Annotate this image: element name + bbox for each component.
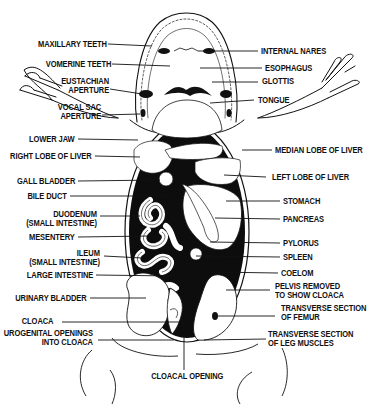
label-pylorus: PYLORUS	[283, 239, 319, 248]
label-transverse-section-femur: TRANSVERSE SECTION OF FEMUR	[281, 304, 366, 322]
label-vomerine-teeth: VOMERINE TEETH	[45, 60, 111, 69]
label-coelom: COELOM	[281, 269, 314, 278]
label-glottis: GLOTTIS	[262, 77, 294, 86]
label-internal-nares: INTERNAL NARES	[261, 47, 326, 56]
label-pancreas: PANCREAS	[283, 215, 324, 224]
label-vocal-sac-aperture: VOCAL SAC APERTURE	[58, 103, 101, 121]
frog-anatomy-diagram: MAXILLARY TEETH VOMERINE TEETH EUSTACHIA…	[0, 0, 375, 404]
label-ileum: ILEUM (SMALL INTESTINE)	[29, 249, 100, 267]
label-mesentery: MESENTERY	[29, 233, 75, 242]
label-esophagus: ESOPHAGUS	[265, 64, 312, 73]
label-pelvis-removed: PELVIS REMOVED TO SHOW CLOACA	[275, 282, 344, 300]
label-cloacal-opening: CLOACAL OPENING	[151, 372, 223, 381]
label-urogenital-openings: UROGENITAL OPENINGS INTO CLOACA	[4, 329, 93, 347]
label-spleen: SPLEEN	[283, 253, 313, 262]
label-lower-jaw: LOWER JAW	[29, 135, 75, 144]
label-maxillary-teeth: MAXILLARY TEETH	[38, 40, 107, 49]
label-transverse-section-leg-muscles: TRANSVERSE SECTION OF LEG MUSCLES	[268, 330, 353, 348]
label-gall-bladder: GALL BLADDER	[17, 177, 75, 186]
label-duodenum: DUODENUM (SMALL INTESTINE)	[26, 210, 97, 228]
label-left-lobe-of-liver: LEFT LOBE OF LIVER	[272, 173, 349, 182]
label-bile-duct: BILE DUCT	[28, 192, 67, 201]
label-right-lobe-of-liver: RIGHT LOBE OF LIVER	[10, 152, 92, 161]
label-eustachian-aperture: EUSTACHIAN APERTURE	[61, 77, 109, 95]
label-tongue: TONGUE	[258, 96, 290, 105]
label-median-lobe-of-liver: MEDIAN LOBE OF LIVER	[275, 146, 363, 155]
label-urinary-bladder: URINARY BLADDER	[16, 294, 87, 303]
label-large-intestine: LARGE INTESTINE	[27, 271, 93, 280]
label-cloaca: CLOACA	[21, 317, 53, 326]
label-stomach: STOMACH	[283, 197, 320, 206]
